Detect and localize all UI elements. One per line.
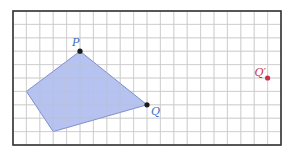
- point-q-prime-label: Q′: [255, 66, 267, 79]
- point-p-label: P: [71, 36, 80, 49]
- point-q: [144, 102, 149, 107]
- grid-lines-overlay: [13, 11, 281, 145]
- point-q-label: Q: [151, 105, 160, 118]
- point-p: [77, 49, 82, 54]
- coordinate-grid-figure: P Q Q′: [0, 0, 288, 150]
